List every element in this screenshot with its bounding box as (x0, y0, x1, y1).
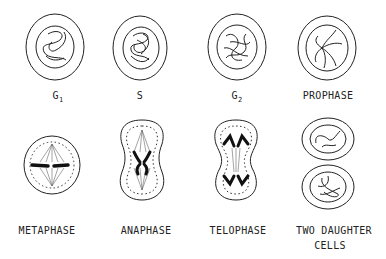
cell-s (111, 14, 169, 82)
metaphase-cell-drawing (22, 134, 82, 196)
telophase-cell-drawing (208, 118, 264, 202)
cell-g1 (24, 12, 86, 82)
label-s: S (137, 90, 143, 101)
cell-daughter-bottom (300, 164, 356, 210)
cell-g2 (206, 12, 268, 82)
label-telophase: TELOPHASE (210, 225, 267, 236)
cell-prophase (296, 14, 358, 82)
cell-telophase (208, 118, 264, 202)
g2-cell-drawing (206, 12, 268, 82)
label-g1: G1 (53, 90, 64, 104)
label-daughter: TWO DAUGHTER (296, 225, 372, 236)
cell-daughter-top (300, 117, 356, 161)
s-cell-drawing (111, 14, 169, 82)
label-daughter-cells: CELLS (314, 240, 346, 251)
anaphase-cell-drawing (114, 118, 170, 202)
label-g2: G2 (232, 90, 243, 104)
label-metaphase: METAPHASE (19, 225, 76, 236)
prophase-cell-drawing (296, 14, 358, 82)
daughter-bottom-drawing (300, 164, 356, 210)
label-prophase: PROPHASE (303, 90, 354, 101)
cell-metaphase (22, 134, 82, 196)
cell-anaphase (114, 118, 170, 202)
label-anaphase: ANAPHASE (121, 225, 172, 236)
g1-cell-drawing (24, 12, 86, 82)
daughter-top-drawing (300, 117, 356, 161)
